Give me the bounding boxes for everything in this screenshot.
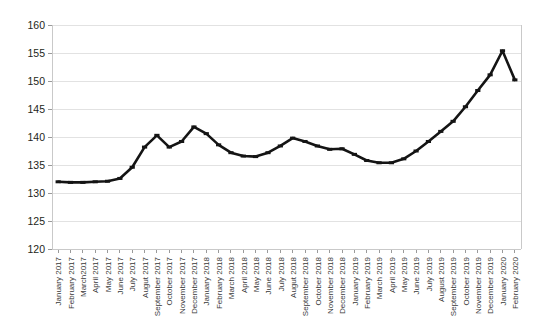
y-tick-label: 120 [27,243,45,255]
x-tick-label: July 2017 [128,256,137,291]
x-tick-label: December 2019 [486,256,495,313]
data-point-marker [253,155,258,158]
x-tick-label: September 2019 [449,256,458,316]
y-axis-ticks: 120125130135140145150155160 [27,19,52,255]
data-point-marker [339,147,344,150]
x-tick-label: October 2018 [314,256,323,305]
x-tick-label: April 2018 [240,256,249,293]
series-path [58,51,515,183]
x-tick-label: June 2019 [412,256,421,294]
data-point-marker [93,180,98,183]
line-chart: 120125130135140145150155160 January 2017… [0,0,541,328]
data-point-marker [56,180,61,183]
x-tick-label: June 2018 [264,256,273,294]
x-tick-label: August 2019 [437,256,446,301]
x-tick-label: September 2018 [301,256,310,316]
x-tick-label: March 2018 [227,256,236,299]
data-point-marker [413,150,418,153]
data-point-marker [389,161,394,164]
data-point-marker [142,146,147,149]
x-axis-ticks [58,249,515,253]
y-tick-label: 150 [27,75,45,87]
y-tick-label: 140 [27,131,45,143]
x-tick-label: May 2018 [252,256,261,292]
data-point-marker [278,144,283,147]
data-point-marker [80,181,85,184]
x-tick-label: March2017 [79,256,88,297]
data-point-marker [451,120,456,123]
x-tick-label: January 2019 [351,256,360,305]
data-point-marker [352,153,357,156]
data-point-marker [105,180,110,183]
y-tick-label: 135 [27,159,45,171]
data-point-marker [290,137,295,140]
x-tick-label: November 2019 [474,256,483,313]
data-series [56,49,518,184]
x-tick-label: Augut 2018 [289,256,298,297]
x-tick-label: February 2019 [363,256,372,309]
data-point-marker [167,146,172,149]
data-point-marker [438,130,443,133]
y-tick-label: 125 [27,215,45,227]
data-point-marker [191,125,196,128]
x-tick-label: April 2017 [91,256,100,293]
x-tick-label: November 2018 [326,256,335,313]
y-tick-label: 160 [27,19,45,31]
x-tick-label: February 2018 [215,256,224,309]
data-point-marker [364,159,369,162]
gridlines [52,25,521,249]
x-tick-label: April 2019 [388,256,397,293]
x-tick-label: May 2017 [104,256,113,292]
data-point-marker [376,161,381,164]
x-tick-label: October 2019 [462,256,471,305]
y-tick-label: 130 [27,187,45,199]
x-tick-label: March 2019 [375,256,384,299]
x-tick-label: July 2018 [277,256,286,291]
data-point-marker [488,73,493,76]
data-point-marker [475,89,480,92]
data-point-marker [500,49,505,52]
x-tick-label: December 2018 [338,256,347,313]
data-point-marker [117,177,122,180]
data-point-marker [265,151,270,154]
x-tick-label: February 2020 [511,256,520,309]
data-point-marker [401,157,406,160]
data-point-marker [204,132,209,135]
data-point-marker [216,143,221,146]
data-point-marker [68,181,73,184]
data-point-marker [426,140,431,143]
x-tick-label: January 2017 [54,256,63,305]
x-tick-label: February 2017 [67,256,76,309]
data-point-marker [315,144,320,147]
x-tick-label: October 2017 [165,256,174,305]
x-tick-label: May 2019 [400,256,409,292]
chart-container: 120125130135140145150155160 January 2017… [0,0,541,328]
data-point-marker [154,134,159,137]
y-tick-label: 155 [27,47,45,59]
data-point-marker [241,155,246,158]
data-point-marker [327,148,332,151]
data-point-marker [228,151,233,154]
data-point-marker [179,140,184,143]
data-point-marker [463,105,468,108]
x-tick-label: December 2017 [190,256,199,313]
x-tick-label: Augut 2017 [141,256,150,297]
x-tick-label: July 2019 [425,256,434,291]
x-tick-label: January 2020 [499,256,508,305]
x-tick-label: November 2017 [178,256,187,313]
data-point-marker [130,166,135,169]
data-point-marker [302,140,307,143]
x-tick-label: January 2018 [202,256,211,305]
y-tick-label: 145 [27,103,45,115]
x-axis-labels: January 2017February 2017March2017April … [54,256,520,316]
x-tick-label: September 2017 [153,256,162,316]
x-tick-label: June 2017 [116,256,125,294]
data-point-marker [512,78,517,81]
